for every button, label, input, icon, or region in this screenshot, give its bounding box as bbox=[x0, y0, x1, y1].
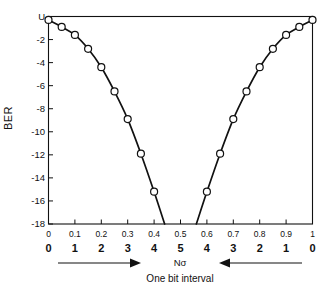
y-tick-label: -14 bbox=[31, 173, 45, 183]
x-tick-label-primary: 0 bbox=[46, 230, 51, 239]
x-tick-label-primary: 0.5 bbox=[175, 230, 187, 239]
x-tick-label-secondary: 0 bbox=[309, 243, 315, 254]
y-tick-label: -8 bbox=[37, 104, 45, 114]
x-tick-label-secondary: 5 bbox=[177, 243, 183, 254]
x-axis-symbol: Nσ bbox=[174, 258, 187, 268]
x-tick-label-secondary: 4 bbox=[151, 243, 157, 254]
x-tick-label-primary: 0.2 bbox=[95, 230, 107, 239]
x-tick-label-primary: 0.3 bbox=[122, 230, 134, 239]
y-tick-label: U bbox=[38, 12, 45, 22]
x-tick-label-secondary: 1 bbox=[283, 243, 289, 254]
x-tick-label-secondary: 3 bbox=[125, 243, 131, 254]
right-arrow-annotation bbox=[219, 259, 302, 268]
x-tick-label-secondary: 2 bbox=[98, 243, 104, 254]
x-tick-label-secondary: 3 bbox=[230, 243, 236, 254]
y-tick-label: -18 bbox=[31, 219, 45, 229]
x-tick-label-primary: 0.9 bbox=[280, 230, 292, 239]
series-line-left bbox=[49, 20, 165, 224]
x-tick-label-primary: 0.8 bbox=[254, 230, 266, 239]
x-tick-label-primary: 0.6 bbox=[201, 230, 213, 239]
y-tick-label: -2 bbox=[37, 35, 45, 45]
y-tick-label: -6 bbox=[37, 81, 45, 91]
y-tick-label: -12 bbox=[31, 150, 45, 160]
x-tick-label-secondary: 4 bbox=[204, 243, 210, 254]
x-tick-label-secondary: 0 bbox=[45, 243, 51, 254]
chart-figure: BER U-2-4-6-8-10-12-14-16-18 00.10.20.30… bbox=[0, 0, 331, 295]
y-tick-label: -10 bbox=[31, 127, 45, 137]
x-tick-label-primary: 0.7 bbox=[227, 230, 239, 239]
series-line-right bbox=[196, 20, 312, 224]
y-tick-label: -4 bbox=[37, 58, 45, 68]
x-tick-label-primary: 0.4 bbox=[148, 230, 160, 239]
x-tick-label-primary: 1 bbox=[310, 230, 315, 239]
x-tick-label-primary: 0.1 bbox=[69, 230, 81, 239]
left-arrow-annotation bbox=[58, 259, 141, 268]
figure-caption: One bit interval bbox=[146, 274, 213, 284]
series-markers-left bbox=[45, 16, 158, 195]
y-tick-label: -16 bbox=[31, 196, 45, 206]
series-markers-right bbox=[203, 16, 316, 195]
x-tick-label-secondary: 2 bbox=[257, 243, 263, 254]
x-tick-label-secondary: 1 bbox=[72, 243, 78, 254]
